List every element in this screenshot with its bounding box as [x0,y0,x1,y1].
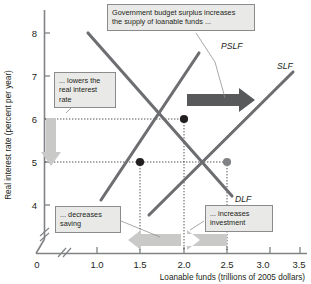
marker-saving-point [136,158,144,166]
lowers-callout-line-2: real interest [59,85,111,94]
marker-original-equilibrium [223,158,231,166]
y-tick-label-5: 5 [32,157,37,168]
investment-callout-line-2: investment [210,218,268,227]
lowers-callout-line-3: rate [59,95,111,104]
dlf-curve-label: DLF [235,194,252,204]
lowers-rate-callout: ... lowers the real interest rate [54,72,116,108]
chart-canvas: 8 7 6 5 4 0 1.0 1.5 2.0 2.5 3.0 3.5 Loan… [0,0,311,284]
saving-callout-line-1: ... decreases [60,210,116,219]
y-tick-label-6: 6 [32,114,37,125]
curves [88,33,293,215]
saving-callout-line-2: saving [60,219,116,228]
x-tick-label-1-5: 1.5 [133,259,146,270]
x-tick-label-3-5: 3.5 [292,259,305,270]
x-axis-break-icon [58,248,71,257]
saving-decrease-arrow [128,230,181,250]
y-tick-label-4: 4 [32,200,37,211]
lowers-callout-line-1: ... lowers the [59,76,111,85]
x-tick-label-3-0: 3.0 [256,259,269,270]
x-tick-label-2-0: 2.0 [177,259,190,270]
dlf-curve [88,33,232,196]
x-tick-label-0: 0 [34,259,39,270]
slf-curve-label: SLF [277,61,294,71]
marker-new-equilibrium [180,115,188,123]
x-axis-ticks [97,247,300,254]
y-tick-label-7: 7 [32,71,37,82]
increases-investment-callout: ... increases investment [205,205,273,232]
investment-increase-arrow [187,230,227,250]
x-tick-label-1-0: 1.0 [90,259,103,270]
supply-callout-line-2: the supply of loanable funds ... [112,17,250,26]
supply-callout-line-1: Government budget surplus increases [112,8,250,17]
x-axis-title: Loanable funds (trillions of 2005 dollar… [160,273,305,282]
decreases-saving-callout: ... decreases saving [55,206,121,233]
supply-increase-callout: Government budget surplus increases the … [107,4,255,31]
pslf-curve-label: PSLF [221,41,243,51]
x-tick-label-2-5: 2.5 [220,259,233,270]
leader-investment [190,221,204,230]
supply-shift-arrow [187,88,255,112]
y-tick-label-8: 8 [32,28,37,39]
y-axis-title: Real interest rate (percent per year) [4,70,13,200]
investment-callout-line-1: ... increases [210,209,268,218]
loanable-funds-market-figure: 8 7 6 5 4 0 1.0 1.5 2.0 2.5 3.0 3.5 Loan… [0,0,311,284]
